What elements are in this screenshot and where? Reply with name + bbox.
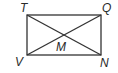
vertex-label-t: T [20,1,29,15]
intersection-label-m: M [56,40,66,54]
vertex-label-n: N [100,56,109,70]
rectangle-diagram: T Q M V N [0,0,118,73]
vertex-label-q: Q [102,1,111,15]
vertex-label-v: V [15,55,24,69]
